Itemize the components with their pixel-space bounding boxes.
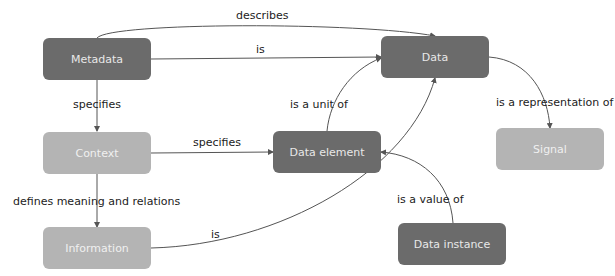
edge-label-is-a-value-of: is a value of xyxy=(397,193,464,206)
node-label: Information xyxy=(65,242,129,255)
edge-label-is-2: is xyxy=(211,228,220,241)
node-data[interactable]: Data xyxy=(381,36,489,78)
node-label: Context xyxy=(75,147,118,160)
edge-data-representation-signal xyxy=(489,57,550,128)
node-signal[interactable]: Signal xyxy=(496,128,604,170)
edge-label-describes: describes xyxy=(236,9,289,22)
node-label: Data element xyxy=(289,146,364,159)
node-context[interactable]: Context xyxy=(43,132,151,174)
node-data-element[interactable]: Data element xyxy=(273,131,381,173)
edge-dataelement-unitof-data xyxy=(327,58,381,131)
edge-label-is-a-unit-of: is a unit of xyxy=(290,98,348,111)
node-label: Signal xyxy=(533,143,567,156)
edge-label-is-a-representation-of: is a representation of xyxy=(496,96,613,109)
node-metadata[interactable]: Metadata xyxy=(43,38,151,80)
node-label: Data xyxy=(422,51,448,64)
node-information[interactable]: Information xyxy=(43,227,151,269)
node-label: Data instance xyxy=(414,238,490,251)
edge-label-specifies: specifies xyxy=(73,98,121,111)
edge-metadata-is-data xyxy=(151,57,381,59)
edge-instance-valueof-element xyxy=(381,152,453,223)
edge-context-specifies-dataelement xyxy=(151,152,273,153)
edge-label-is: is xyxy=(256,43,265,56)
node-data-instance[interactable]: Data instance xyxy=(398,223,506,265)
edge-label-specifies-2: specifies xyxy=(193,136,241,149)
edge-label-defines-meaning: defines meaning and relations xyxy=(13,195,180,208)
node-label: Metadata xyxy=(71,53,123,66)
